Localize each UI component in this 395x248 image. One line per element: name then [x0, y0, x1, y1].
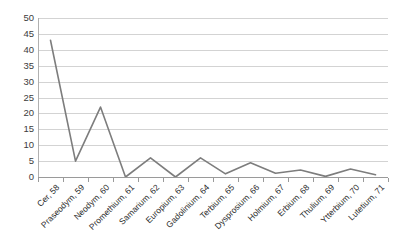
- x-axis-tick: [313, 178, 314, 182]
- x-axis-tick: [363, 178, 364, 182]
- x-axis-tick: [138, 178, 139, 182]
- x-axis-tick: [288, 178, 289, 182]
- y-axis-tick-label: 20: [4, 109, 34, 119]
- y-axis-labels: 50454035302520151050: [0, 18, 34, 177]
- y-axis-tick-label: 40: [4, 45, 34, 55]
- figure-caption: [4, 238, 304, 248]
- x-axis-tick: [63, 178, 64, 182]
- x-axis-tick: [388, 178, 389, 182]
- data-series-line: [38, 18, 388, 177]
- x-axis-tick: [38, 178, 39, 182]
- y-axis-tick-label: 30: [4, 77, 34, 87]
- y-axis-tick-label: 35: [4, 61, 34, 71]
- y-axis-tick-label: 25: [4, 93, 34, 103]
- plot-area: [38, 18, 388, 177]
- x-axis-tick: [88, 178, 89, 182]
- y-axis-tick-label: 50: [4, 13, 34, 23]
- chart-screenshot: 50454035302520151050 Cer, 58Praseodym, 5…: [0, 0, 395, 248]
- x-axis-labels: Cer, 58Praseodym, 59Neodym, 60Promethium…: [38, 183, 388, 243]
- y-axis-tick-label: 0: [4, 172, 34, 182]
- x-axis-tick: [113, 178, 114, 182]
- x-axis-tick: [163, 178, 164, 182]
- x-axis-tick: [263, 178, 264, 182]
- x-axis-tick: [238, 178, 239, 182]
- x-axis-tick: [188, 178, 189, 182]
- y-axis-line: [38, 18, 39, 177]
- y-axis-tick-label: 15: [4, 125, 34, 135]
- x-axis-tick: [338, 178, 339, 182]
- y-axis-tick-label: 10: [4, 140, 34, 150]
- y-axis-tick-label: 5: [4, 156, 34, 166]
- x-axis-tick: [213, 178, 214, 182]
- y-axis-tick-label: 45: [4, 29, 34, 39]
